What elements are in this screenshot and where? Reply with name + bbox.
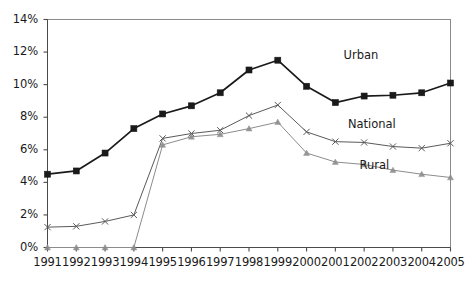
series-label-national: National [348, 117, 396, 131]
data-point-urban-1991 [45, 171, 51, 177]
data-point-urban-2003 [390, 92, 396, 98]
data-point-national-1999 [275, 102, 281, 108]
data-point-urban-1994 [131, 126, 137, 132]
data-point-urban-2005 [448, 80, 454, 86]
chart-canvas [0, 0, 465, 281]
series-label-urban: Urban [344, 48, 379, 62]
y-axis-tick-label: 6% [0, 142, 38, 156]
data-point-rural-1999 [275, 119, 281, 124]
data-point-national-2000 [303, 129, 309, 135]
y-axis-tick-label: 8% [0, 109, 38, 123]
data-point-national-1998 [246, 112, 252, 118]
y-axis-tick-label: 0% [0, 240, 38, 254]
data-point-urban-2004 [419, 90, 425, 96]
y-axis-tick-label: 14% [0, 12, 38, 26]
series-label-rural: Rural [359, 158, 389, 172]
data-point-urban-1995 [160, 111, 166, 117]
y-axis-tick-label: 10% [0, 77, 38, 91]
data-point-urban-2000 [304, 83, 310, 89]
data-point-urban-2001 [332, 100, 338, 106]
data-point-urban-1996 [188, 103, 194, 109]
data-point-urban-1993 [102, 150, 108, 156]
data-point-urban-1998 [246, 67, 252, 73]
line-chart: 14%12%10%8%6%4%2%0% 19911992199319941995… [0, 0, 465, 281]
x-axis-tick-label: 2005 [434, 255, 465, 269]
data-point-urban-1999 [275, 57, 281, 63]
data-point-urban-1997 [217, 90, 223, 96]
y-axis-tick-label: 4% [0, 174, 38, 188]
series-line-rural [48, 122, 451, 247]
y-axis-tick-label: 12% [0, 44, 38, 58]
y-axis-tick-label: 2% [0, 207, 38, 221]
data-point-urban-1992 [73, 168, 79, 174]
data-point-urban-2002 [361, 93, 367, 99]
